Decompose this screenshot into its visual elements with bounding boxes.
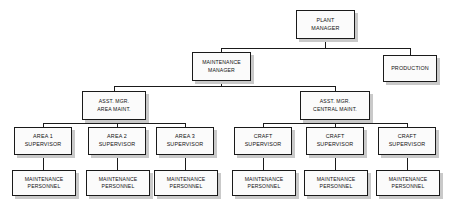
node-plant-manager[interactable]: PLANT MANAGER — [296, 10, 355, 39]
node-production[interactable]: PRODUCTION — [383, 55, 437, 82]
node-craft-supervisor-1[interactable]: CRAFT SUPERVISOR — [234, 127, 292, 155]
node-label: AREA 3 SUPERVISOR — [167, 133, 204, 149]
node-label: ASST. MGR. AREA MAINT. — [97, 98, 130, 113]
node-label: PLANT MANAGER — [311, 17, 339, 33]
node-area-2-supervisor[interactable]: AREA 2 SUPERVISOR — [88, 127, 146, 155]
node-maintenance-personnel-1[interactable]: MAINTENANCE PERSONNEL — [12, 170, 76, 196]
connector-area-1-to-personnel — [43, 155, 44, 170]
node-label: CRAFT SUPERVISOR — [245, 133, 282, 149]
node-label: MAINTENANCE PERSONNEL — [389, 176, 428, 191]
node-craft-supervisor-3[interactable]: CRAFT SUPERVISOR — [378, 127, 436, 155]
node-label: CRAFT SUPERVISOR — [317, 133, 354, 149]
node-craft-supervisor-2[interactable]: CRAFT SUPERVISOR — [306, 127, 364, 155]
node-label: AREA 2 SUPERVISOR — [99, 133, 136, 149]
node-label: AREA 1 SUPERVISOR — [25, 133, 62, 149]
connector-level1-bus — [221, 48, 410, 49]
node-label: CRAFT SUPERVISOR — [389, 133, 426, 149]
connector-craft-3-to-personnel — [407, 155, 408, 170]
node-label: MAINTENANCE PERSONNEL — [317, 176, 356, 191]
node-label: MAINTENANCE MANAGER — [202, 59, 241, 74]
node-label: MAINTENANCE PERSONNEL — [25, 176, 64, 191]
node-maintenance-personnel-6[interactable]: MAINTENANCE PERSONNEL — [376, 170, 440, 196]
node-area-3-supervisor[interactable]: AREA 3 SUPERVISOR — [156, 127, 214, 155]
node-label: ASST. MGR. CENTRAL MAINT. — [313, 98, 357, 113]
node-maintenance-personnel-5[interactable]: MAINTENANCE PERSONNEL — [304, 170, 368, 196]
node-asst-mgr-area-maint[interactable]: ASST. MGR. AREA MAINT. — [82, 91, 146, 120]
connector-area-3-to-personnel — [185, 155, 186, 170]
node-label: MAINTENANCE PERSONNEL — [99, 176, 138, 191]
node-area-1-supervisor[interactable]: AREA 1 SUPERVISOR — [14, 127, 72, 155]
connector-craft-1-to-personnel — [263, 155, 264, 170]
connector-craft-2-to-personnel — [335, 155, 336, 170]
node-maintenance-manager[interactable]: MAINTENANCE MANAGER — [192, 52, 251, 81]
connector-to-production — [410, 48, 411, 55]
node-label: MAINTENANCE PERSONNEL — [245, 176, 284, 191]
org-chart-canvas: PLANT MANAGER MAINTENANCE MANAGER PRODUC… — [0, 0, 454, 210]
connector-level2-bus — [114, 86, 335, 87]
node-asst-mgr-central-maint[interactable]: ASST. MGR. CENTRAL MAINT. — [300, 91, 370, 120]
node-maintenance-personnel-4[interactable]: MAINTENANCE PERSONNEL — [232, 170, 296, 196]
node-maintenance-personnel-3[interactable]: MAINTENANCE PERSONNEL — [154, 170, 218, 196]
node-label: PRODUCTION — [391, 65, 429, 73]
connector-plant-manager-drop — [325, 39, 326, 48]
connector-area-2-to-personnel — [117, 155, 118, 170]
connector-area-supervisors-bus — [43, 123, 185, 124]
node-maintenance-personnel-2[interactable]: MAINTENANCE PERSONNEL — [86, 170, 150, 196]
node-label: MAINTENANCE PERSONNEL — [167, 176, 206, 191]
